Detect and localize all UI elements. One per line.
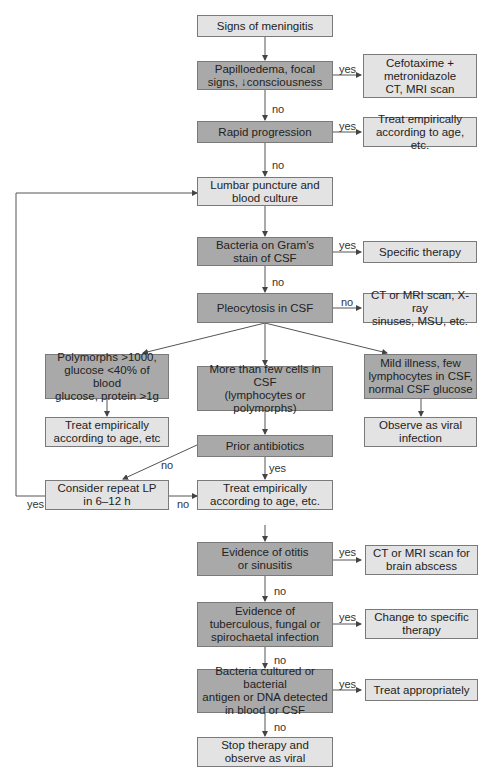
node-more-cells: More than few cells in CSF (lymphocytes … bbox=[197, 366, 333, 411]
node-stop-therapy: Stop therapy and observe as viral bbox=[197, 737, 333, 767]
edge-label-no: no bbox=[274, 654, 286, 666]
edge-label-no: no bbox=[274, 585, 286, 597]
edge-label-yes: yes bbox=[339, 239, 356, 251]
node-pleocytosis: Pleocytosis in CSF bbox=[197, 293, 333, 323]
node-tuberculous: Evidence of tuberculous, fungal or spiro… bbox=[197, 602, 333, 647]
node-text: Stop therapy and observe as viral bbox=[221, 739, 309, 765]
node-ct-xray: CT or MRI scan, X-ray sinuses, MSU, etc. bbox=[363, 293, 477, 323]
node-text: Rapid progression bbox=[218, 126, 311, 139]
node-mild-illness: Mild illness, few lymphocytes in CSF, no… bbox=[364, 354, 477, 399]
node-text: Evidence of tuberculous, fungal or spiro… bbox=[210, 605, 321, 644]
node-text: Specific therapy bbox=[379, 246, 461, 259]
edge-label-yes: yes bbox=[339, 611, 356, 623]
node-gram-stain: Bacteria on Gram’s stain of CSF bbox=[197, 237, 333, 266]
edge-label-yes: yes bbox=[339, 546, 356, 558]
edge-label-yes: yes bbox=[27, 498, 44, 510]
node-treat-polymorphs: Treat empirically according to age, etc bbox=[45, 417, 169, 447]
edge-label-yes: yes bbox=[339, 120, 356, 132]
node-text: Bacteria cultured or bacterial antigen o… bbox=[201, 665, 329, 717]
node-otitis-sinusitis: Evidence of otitis or sinusitis bbox=[197, 542, 333, 576]
node-text: Observe as viral infection bbox=[379, 419, 462, 445]
node-text: CT or MRI scan for brain abscess bbox=[373, 547, 470, 573]
node-text: Papilloedema, focal signs, ↓consciousnes… bbox=[208, 63, 322, 89]
edge-label-no: no bbox=[274, 721, 286, 733]
node-brain-abscess: CT or MRI scan for brain abscess bbox=[365, 545, 478, 575]
node-treat-appropriately: Treat appropriately bbox=[365, 679, 478, 701]
edge-label-no: no bbox=[272, 159, 284, 171]
node-text: Cefotaxime + metronidazole CT, MRI scan bbox=[384, 57, 456, 96]
node-text: CT or MRI scan, X-ray sinuses, MSU, etc. bbox=[367, 289, 473, 328]
node-prior-antibiotics: Prior antibiotics bbox=[197, 435, 333, 457]
node-text: Prior antibiotics bbox=[226, 440, 305, 453]
node-bacteria-cultured: Bacteria cultured or bacterial antigen o… bbox=[197, 669, 333, 713]
edge-label-no: no bbox=[161, 459, 173, 471]
edge-label-no: no bbox=[272, 103, 284, 115]
node-text: Signs of meningitis bbox=[217, 20, 314, 33]
node-papilloedema: Papilloedema, focal signs, ↓consciousnes… bbox=[197, 61, 333, 90]
node-treat-rapid: Treat empirically according to age, etc. bbox=[363, 117, 477, 147]
edge-label-no: no bbox=[177, 498, 189, 510]
node-specific-therapy: Specific therapy bbox=[363, 241, 477, 263]
node-rapid-progression: Rapid progression bbox=[197, 121, 333, 143]
edge-label-yes: yes bbox=[339, 678, 356, 690]
edge-label-yes: yes bbox=[269, 462, 286, 474]
node-lumbar-puncture: Lumbar puncture and blood culture bbox=[197, 177, 333, 206]
node-text: Bacteria on Gram’s stain of CSF bbox=[216, 239, 314, 265]
node-repeat-lp: Consider repeat LP in 6–12 h bbox=[45, 480, 169, 510]
node-text: Pleocytosis in CSF bbox=[217, 302, 314, 315]
node-treat-empirically: Treat empirically according to age, etc. bbox=[197, 480, 333, 510]
node-text: Lumbar puncture and blood culture bbox=[210, 179, 319, 205]
node-observe-viral: Observe as viral infection bbox=[364, 417, 477, 447]
node-text: More than few cells in CSF (lymphocytes … bbox=[201, 363, 329, 415]
node-signs-of-meningitis: Signs of meningitis bbox=[197, 15, 333, 37]
edge-label-no: no bbox=[272, 276, 284, 288]
node-polymorphs: Polymorphs >1000, glucose <40% of blood … bbox=[45, 354, 169, 399]
node-text: Mild illness, few lymphocytes in CSF, no… bbox=[368, 357, 472, 396]
node-text: Treat empirically according to age, etc. bbox=[210, 482, 320, 508]
edge-label-yes: yes bbox=[339, 63, 356, 75]
node-text: Polymorphs >1000, glucose <40% of blood … bbox=[49, 351, 165, 403]
node-text: Change to specific therapy bbox=[374, 611, 469, 637]
node-text: Treat empirically according to age, etc bbox=[54, 419, 161, 445]
node-text: Evidence of otitis or sinusitis bbox=[222, 546, 309, 572]
node-cefotaxime: Cefotaxime + metronidazole CT, MRI scan bbox=[363, 54, 477, 98]
edge-label-no: no bbox=[341, 296, 353, 308]
node-text: Consider repeat LP in 6–12 h bbox=[57, 482, 156, 508]
node-change-therapy: Change to specific therapy bbox=[365, 609, 478, 639]
node-text: Treat empirically according to age, etc. bbox=[367, 113, 473, 152]
node-text: Treat appropriately bbox=[373, 684, 469, 697]
